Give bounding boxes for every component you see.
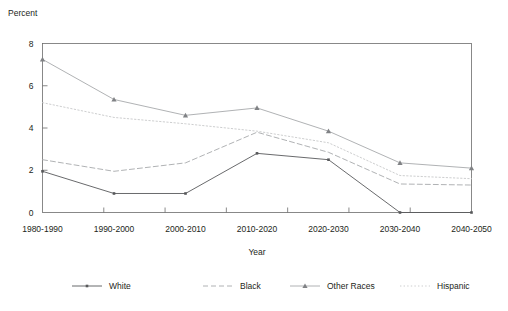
data-point-marker	[470, 211, 473, 214]
plot-frame	[43, 44, 472, 213]
y-tick-label: 8	[29, 39, 34, 49]
series-line-hispanic	[43, 103, 472, 179]
legend-label-black: Black	[240, 281, 262, 291]
x-tick-label: 1980-1990	[22, 224, 63, 234]
x-tick-label: 2010-2020	[237, 224, 278, 234]
x-tick-label: 2020-2030	[308, 224, 349, 234]
legend-label-hispanic: Hispanic	[437, 281, 470, 291]
data-point-marker	[40, 57, 45, 62]
legend-label-other-races: Other Races	[327, 281, 375, 291]
data-point-marker	[327, 158, 330, 161]
x-tick-label: 2030-2040	[380, 224, 421, 234]
line-chart: Percent024681980-19901990-20002000-20102…	[0, 0, 508, 311]
y-tick-label: 0	[29, 208, 34, 218]
x-axis-title: Year	[248, 247, 265, 257]
series-line-other-races	[43, 59, 472, 168]
data-point-marker	[113, 192, 116, 195]
legend-marker	[86, 285, 89, 288]
data-point-marker	[184, 192, 187, 195]
chart-container: Percent024681980-19901990-20002000-20102…	[0, 0, 508, 311]
data-point-marker	[111, 97, 116, 102]
series-line-black	[43, 132, 472, 185]
series-line-white	[43, 153, 472, 212]
x-tick-label: 2000-2010	[165, 224, 206, 234]
data-point-marker	[399, 211, 402, 214]
y-tick-label: 6	[29, 81, 34, 91]
y-tick-label: 4	[29, 123, 34, 133]
x-tick-label: 2040-2050	[451, 224, 492, 234]
y-axis-title: Percent	[8, 8, 38, 18]
x-tick-label: 1990-2000	[94, 224, 135, 234]
y-tick-label: 2	[29, 165, 34, 175]
data-point-marker	[41, 170, 44, 173]
data-point-marker	[256, 152, 259, 155]
legend-label-white: White	[109, 281, 131, 291]
